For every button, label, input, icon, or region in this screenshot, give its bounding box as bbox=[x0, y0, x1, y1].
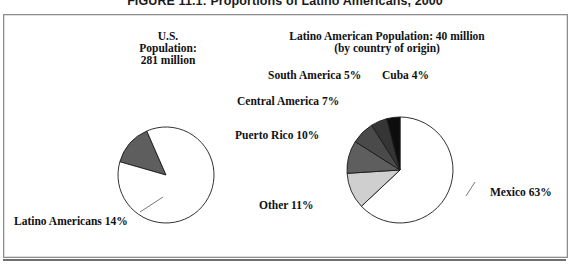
label-central-america: Central America 7% bbox=[237, 95, 339, 107]
label-other: Other 11% bbox=[259, 199, 313, 211]
label-mexico: Mexico 63% bbox=[490, 186, 552, 198]
label-cuba: Cuba 4% bbox=[382, 69, 429, 81]
label-puerto-rico: Puerto Rico 10% bbox=[235, 129, 319, 141]
label-latino-americans: Latino Americans 14% bbox=[14, 215, 128, 227]
mexico-callout-leader-line bbox=[466, 182, 475, 196]
figure-root: FIGURE 11.1: Proportions of Latino Ameri… bbox=[0, 0, 570, 276]
label-south-america: South America 5% bbox=[268, 69, 361, 81]
